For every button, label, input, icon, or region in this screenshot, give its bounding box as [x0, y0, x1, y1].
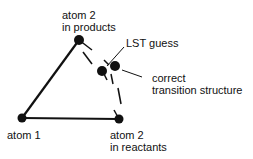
atom1-dot [18, 114, 27, 123]
correct-ts-dot [110, 61, 120, 71]
bond-atom1-atom2-products [22, 40, 79, 118]
label-atom2-products-line2: in products [62, 21, 116, 34]
bond-atom1-atom2-reactants [22, 118, 119, 119]
correct-ts-pointer [122, 70, 142, 77]
atom2-products-dot [74, 35, 84, 45]
dashed-path-2 [83, 52, 92, 64]
dashed-path-5 [111, 74, 113, 84]
lst-guess-dot [97, 66, 107, 76]
atom2-reactants-dot [115, 115, 124, 124]
label-correct-ts-line2: transition structure [152, 84, 242, 97]
label-lst-guess: LST guess [126, 37, 178, 50]
dashed-path-6 [118, 88, 121, 104]
label-atom2-reactants-line2: in reactants [110, 141, 167, 154]
label-atom1: atom 1 [7, 129, 41, 142]
